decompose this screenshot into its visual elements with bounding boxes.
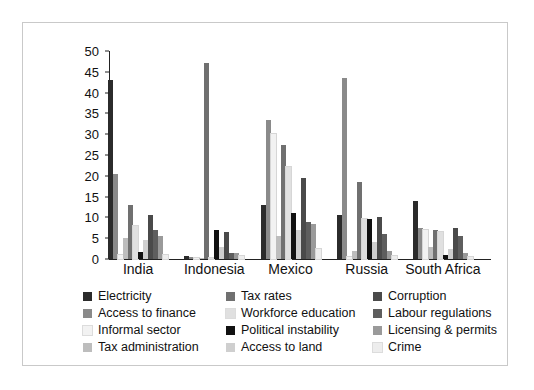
y-axis-tick-mark xyxy=(105,196,109,197)
legend-item[interactable]: Labour regulations xyxy=(373,306,497,321)
y-axis-tick-mark xyxy=(105,51,109,52)
y-axis-tick-mark xyxy=(105,113,109,114)
y-axis: 05101520253035404550 xyxy=(71,51,105,259)
legend-item[interactable]: Access to finance xyxy=(83,306,199,321)
legend-swatch-icon xyxy=(373,343,382,352)
bar xyxy=(468,257,473,259)
x-axis-label: Russia xyxy=(345,261,388,277)
legend-item-label: Informal sector xyxy=(98,324,181,337)
legend-item-label: Tax rates xyxy=(241,290,292,303)
legend-item[interactable]: Electricity xyxy=(83,289,199,304)
x-axis-label: India xyxy=(123,261,153,277)
y-axis-tick-mark xyxy=(105,92,109,93)
bar-group xyxy=(261,51,321,259)
y-axis-tick-mark xyxy=(105,134,109,135)
legend-item-label: Access to land xyxy=(241,341,322,354)
bar xyxy=(316,249,321,259)
y-axis-tick-label: 15 xyxy=(85,190,99,203)
legend-item[interactable]: Tax administration xyxy=(83,340,199,355)
legend-item-label: Labour regulations xyxy=(388,307,492,320)
chart-legend: ElectricityAccess to financeInformal sec… xyxy=(83,289,493,351)
legend-swatch-icon xyxy=(226,292,235,301)
legend-swatch-icon xyxy=(226,343,235,352)
legend-item[interactable]: Crime xyxy=(373,340,497,355)
legend-swatch-icon xyxy=(226,309,235,318)
y-axis-tick-mark xyxy=(105,175,109,176)
legend-swatch-icon xyxy=(83,326,92,335)
bar xyxy=(204,63,209,259)
x-axis-label: Mexico xyxy=(268,261,312,277)
legend-item[interactable]: Workforce education xyxy=(226,306,355,321)
y-axis-tick-label: 35 xyxy=(85,107,99,120)
x-axis-label: South Africa xyxy=(405,261,481,277)
bar xyxy=(239,256,244,259)
legend-item-label: Crime xyxy=(388,341,421,354)
bar-group xyxy=(413,51,473,259)
legend-item[interactable]: Political instability xyxy=(226,323,355,338)
bar xyxy=(113,174,118,259)
y-axis-tick-mark xyxy=(105,259,109,260)
y-axis-tick-mark xyxy=(105,71,109,72)
legend-item-label: Electricity xyxy=(98,290,151,303)
legend-item-label: Tax administration xyxy=(98,341,199,354)
x-axis-label: Indonesia xyxy=(184,261,245,277)
bar-group xyxy=(337,51,397,259)
y-axis-tick-label: 30 xyxy=(85,128,99,141)
y-axis-tick-mark xyxy=(105,155,109,156)
y-axis-tick-label: 50 xyxy=(85,45,99,58)
legend-column: ElectricityAccess to financeInformal sec… xyxy=(83,289,199,357)
legend-column: Tax ratesWorkforce educationPolitical in… xyxy=(226,289,355,357)
legend-item[interactable]: Informal sector xyxy=(83,323,199,338)
legend-swatch-icon xyxy=(226,326,235,335)
legend-item-label: Workforce education xyxy=(241,307,355,320)
bar-group xyxy=(184,51,244,259)
legend-swatch-icon xyxy=(373,326,382,335)
bar xyxy=(163,255,168,259)
legend-item[interactable]: Access to land xyxy=(226,340,355,355)
chart-frame: 05101520253035404550 IndiaIndonesiaMexic… xyxy=(22,22,508,366)
plot-area: 05101520253035404550 xyxy=(71,51,491,259)
legend-item-label: Political instability xyxy=(241,324,339,337)
y-axis-tick-mark xyxy=(105,217,109,218)
legend-swatch-icon xyxy=(373,292,382,301)
legend-swatch-icon xyxy=(83,292,92,301)
y-axis-tick-label: 25 xyxy=(85,149,99,162)
bar-group xyxy=(108,51,168,259)
legend-item[interactable]: Licensing & permits xyxy=(373,323,497,338)
legend-column: CorruptionLabour regulationsLicensing & … xyxy=(373,289,497,357)
y-axis-tick-label: 20 xyxy=(85,169,99,182)
legend-swatch-icon xyxy=(83,343,92,352)
legend-swatch-icon xyxy=(373,309,382,318)
x-axis-labels: IndiaIndonesiaMexicoRussiaSouth Africa xyxy=(71,261,491,281)
y-axis-tick-label: 45 xyxy=(85,65,99,78)
y-axis-tick-label: 5 xyxy=(92,232,99,245)
legend-item-label: Licensing & permits xyxy=(388,324,497,337)
legend-swatch-icon xyxy=(83,309,92,318)
legend-item-label: Access to finance xyxy=(98,307,196,320)
bar xyxy=(342,78,347,259)
y-axis-tick-label: 40 xyxy=(85,86,99,99)
y-axis-tick-label: 10 xyxy=(85,211,99,224)
legend-item[interactable]: Corruption xyxy=(373,289,497,304)
legend-item-label: Corruption xyxy=(388,290,446,303)
y-axis-tick-mark xyxy=(105,238,109,239)
x-axis-line xyxy=(109,259,491,260)
legend-item[interactable]: Tax rates xyxy=(226,289,355,304)
bar xyxy=(392,256,397,259)
bar-groups xyxy=(110,51,491,259)
